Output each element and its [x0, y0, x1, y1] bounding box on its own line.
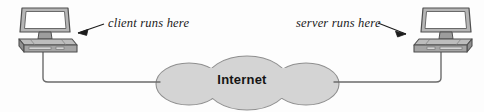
- server-computer: [414, 8, 472, 52]
- client-server-internet-diagram: client runs here server runs here Intern…: [0, 0, 484, 112]
- diagram-canvas: [0, 0, 484, 112]
- server-annotation-label: server runs here: [296, 16, 381, 31]
- client-computer: [19, 8, 77, 52]
- internet-cloud-label: Internet: [0, 72, 484, 87]
- server-callout-arrow: [378, 23, 406, 37]
- client-annotation-label: client runs here: [108, 16, 189, 31]
- client-callout-arrow: [78, 24, 104, 35]
